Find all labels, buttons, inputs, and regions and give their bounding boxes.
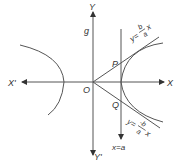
hyperbola-diagram: Y g X' X O P Q Y' x=a y= b a x y= -b a x [0, 0, 180, 166]
label-g: g [84, 26, 89, 36]
label-x-neg: X' [7, 78, 16, 88]
equation-asymptote-positive: y= b a x [125, 18, 156, 46]
label-p: P [112, 59, 118, 69]
label-y-neg: Y' [94, 152, 102, 162]
equation-asymptote-negative: y= -b a x [124, 112, 156, 141]
svg-text:b: b [136, 23, 143, 31]
svg-text:y=: y= [125, 116, 138, 129]
label-x: X [166, 78, 174, 88]
asymptote-positive [93, 37, 159, 82]
svg-text:a: a [141, 30, 148, 38]
asymptote-negative [93, 82, 160, 128]
hyperbola-left-branch [20, 45, 64, 115]
label-y: Y [89, 2, 96, 12]
label-q: Q [112, 100, 119, 110]
label-origin: O [83, 85, 90, 95]
svg-text:y=: y= [127, 31, 140, 44]
svg-text:x: x [144, 22, 154, 33]
label-directrix: x=a [111, 143, 126, 152]
svg-text:a: a [135, 127, 142, 135]
